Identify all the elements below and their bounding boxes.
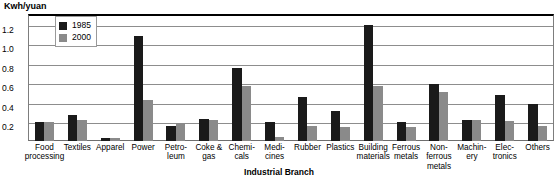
bar-1985: [462, 120, 472, 141]
x-tick-label: Others: [517, 143, 558, 152]
bar-1985: [331, 111, 341, 141]
bar-group: [192, 14, 225, 141]
bar-1985: [166, 126, 176, 141]
bar-2000: [439, 92, 449, 141]
bar-2000: [505, 121, 515, 141]
bar-chart: Kwh/yuan 1.21.00.80.60.40.2 1985 2000 Fo…: [0, 0, 558, 185]
bar-2000: [110, 138, 120, 141]
legend-swatch-2000-icon: [59, 34, 67, 42]
bar-2000: [472, 120, 482, 141]
legend: 1985 2000: [55, 16, 97, 47]
legend-item-2000[interactable]: 2000: [59, 32, 91, 43]
bar-2000: [242, 86, 252, 141]
legend-label-1985: 1985: [72, 21, 91, 30]
y-tick-label: 0.2: [2, 122, 14, 132]
bar-1985: [364, 25, 374, 141]
bar-2000: [176, 123, 186, 141]
y-tick-label: 0.6: [2, 83, 14, 93]
bar-2000: [538, 126, 548, 141]
bar-2000: [307, 126, 317, 141]
bar-1985: [265, 122, 275, 141]
bar-1985: [528, 104, 538, 141]
bar-2000: [373, 86, 383, 141]
bar-2000: [209, 120, 219, 141]
bar-group: [127, 14, 160, 141]
bar-group: [291, 14, 324, 141]
bar-1985: [397, 122, 407, 141]
bar-1985: [101, 138, 111, 141]
bar-group: [94, 14, 127, 141]
legend-label-2000: 2000: [72, 33, 91, 42]
bar-group: [357, 14, 390, 141]
bar-group: [521, 14, 554, 141]
bar-1985: [495, 95, 505, 141]
y-tick-label: 0.4: [2, 103, 14, 113]
bar-group: [258, 14, 291, 141]
bar-2000: [77, 120, 87, 141]
bar-1985: [298, 97, 308, 141]
y-axis-unit-label: Kwh/yuan: [4, 0, 47, 12]
bar-group: [488, 14, 521, 141]
x-axis-title: Industrial Branch: [0, 167, 558, 177]
bar-group: [324, 14, 357, 141]
bar-2000: [340, 127, 350, 141]
bars-layer: [28, 14, 554, 141]
bar-group: [160, 14, 193, 141]
bar-1985: [199, 119, 209, 141]
bar-1985: [134, 36, 144, 141]
bar-2000: [44, 122, 54, 141]
y-tick-label: 0.8: [2, 64, 14, 74]
bar-2000: [143, 100, 153, 141]
y-tick-label: 1.2: [2, 25, 14, 35]
legend-swatch-1985-icon: [59, 22, 67, 30]
bar-2000: [275, 137, 285, 141]
bar-1985: [232, 68, 242, 141]
bar-1985: [429, 84, 439, 141]
bar-group: [390, 14, 423, 141]
bar-group: [455, 14, 488, 141]
bar-1985: [68, 115, 78, 141]
legend-item-1985[interactable]: 1985: [59, 20, 91, 31]
bar-1985: [35, 122, 45, 141]
bar-2000: [406, 127, 416, 141]
bar-group: [225, 14, 258, 141]
bar-group: [423, 14, 456, 141]
y-tick-label: 1.0: [2, 44, 14, 54]
